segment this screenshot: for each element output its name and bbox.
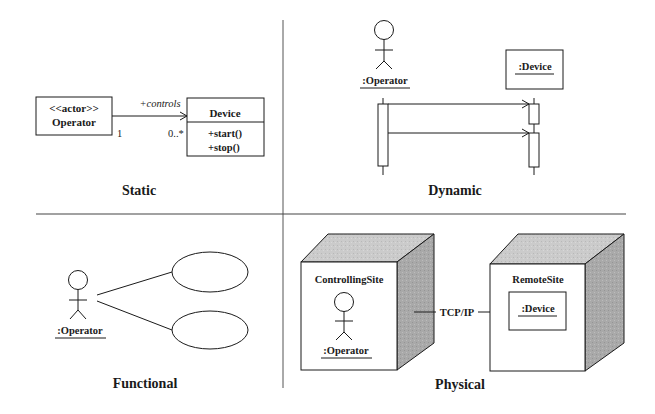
functional-actor-label: :Operator: [57, 325, 103, 336]
use-case-1: [172, 252, 248, 292]
remote-site-name: RemoteSite: [512, 274, 564, 285]
operator-lifeline: [378, 98, 388, 175]
device-component-box: :Device: [509, 292, 566, 330]
link-label: TCP/IP: [440, 307, 475, 318]
operator-class-name: Operator: [52, 116, 96, 128]
physical-view: ControllingSite :Operator TCP/IP RemoteS…: [301, 234, 624, 392]
remote-site-node: RemoteSite :Device: [490, 234, 624, 371]
controls-association: +controls 1 0..*: [112, 98, 187, 139]
operation-stop: +stop(): [208, 142, 240, 154]
association-role: +controls: [139, 98, 180, 109]
controlling-site-name: ControllingSite: [315, 274, 384, 285]
controlling-site-node: ControllingSite :Operator: [301, 234, 434, 370]
static-view: <<actor>> Operator +controls 1 0..* Devi…: [36, 97, 264, 198]
source-multiplicity: 1: [117, 128, 122, 139]
physical-title: Physical: [435, 377, 485, 392]
functional-title: Functional: [113, 376, 178, 391]
remote-device-label: :Device: [521, 303, 555, 314]
physical-operator-label: :Operator: [323, 345, 369, 356]
operator-lifeline-label: :Operator: [362, 75, 408, 86]
device-object-box: :Device: [506, 50, 563, 89]
use-case-links: [97, 272, 172, 330]
dynamic-view: :Operator :Device Dynamic: [360, 21, 563, 199]
actor-stereotype: <<actor>>: [49, 102, 99, 114]
operator-actor-icon: [375, 21, 394, 70]
device-lifeline: [529, 98, 539, 175]
device-class-name: Device: [209, 107, 240, 119]
operator-class-box: <<actor>> Operator: [36, 97, 112, 135]
message-arrows: [388, 100, 529, 137]
functional-view: :Operator Functional: [55, 252, 248, 391]
static-title: Static: [122, 183, 156, 198]
operator-actor-icon: [69, 271, 88, 320]
dynamic-title: Dynamic: [428, 183, 482, 198]
uml-four-views-diagram: <<actor>> Operator +controls 1 0..* Devi…: [0, 0, 655, 414]
device-class-box: Device +start() +stop(): [187, 98, 264, 156]
target-multiplicity: 0..*: [168, 128, 184, 139]
operation-start: +start(): [208, 128, 242, 140]
use-case-2: [172, 311, 248, 349]
device-object-label: :Device: [518, 61, 552, 72]
